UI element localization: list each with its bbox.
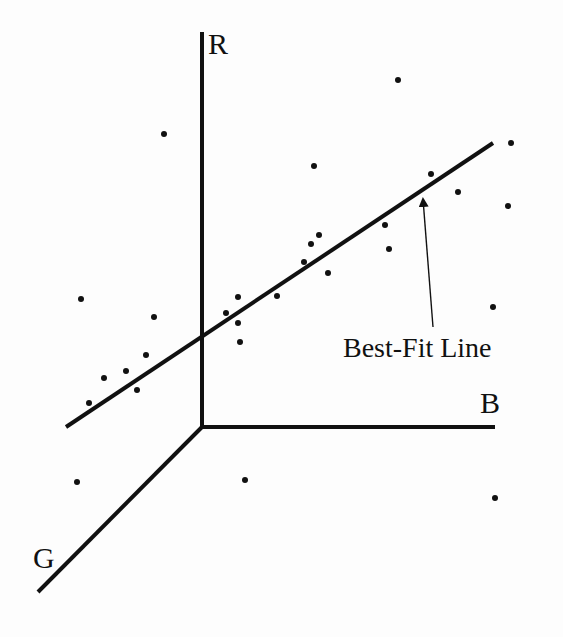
data-point (382, 222, 388, 228)
data-point (308, 241, 314, 247)
data-point (237, 339, 243, 345)
best-fit-line-stroke (66, 143, 493, 427)
axes (38, 32, 495, 592)
data-point (143, 352, 149, 358)
axis-label-b: B (480, 386, 500, 419)
data-point (492, 495, 498, 501)
arrow-icon (423, 199, 433, 327)
data-point (505, 203, 511, 209)
rgb-scatter-diagram: Best-Fit Line RBG (0, 0, 563, 637)
data-point (274, 293, 280, 299)
annotation: Best-Fit Line (343, 199, 492, 363)
best-fit-line (66, 143, 493, 427)
data-point (74, 479, 80, 485)
data-point (86, 400, 92, 406)
data-point (325, 270, 331, 276)
best-fit-label: Best-Fit Line (343, 332, 492, 363)
data-point (508, 140, 514, 146)
data-point (455, 189, 461, 195)
data-point (235, 320, 241, 326)
data-point (101, 375, 107, 381)
data-point (242, 477, 248, 483)
data-point (490, 304, 496, 310)
diagram-canvas: Best-Fit Line RBG (0, 0, 563, 637)
axis-labels: RBG (33, 27, 500, 574)
axis-label-r: R (208, 27, 228, 60)
data-point (386, 246, 392, 252)
data-point (316, 232, 322, 238)
data-points (74, 77, 514, 501)
data-point (123, 368, 129, 374)
data-point (78, 296, 84, 302)
data-point (428, 171, 434, 177)
data-point (301, 259, 307, 265)
axis-label-g: G (33, 541, 55, 574)
data-point (395, 77, 401, 83)
data-point (134, 387, 140, 393)
data-point (311, 163, 317, 169)
data-point (161, 131, 167, 137)
data-point (151, 314, 157, 320)
data-point (223, 310, 229, 316)
axis-g (38, 427, 202, 592)
data-point (235, 294, 241, 300)
